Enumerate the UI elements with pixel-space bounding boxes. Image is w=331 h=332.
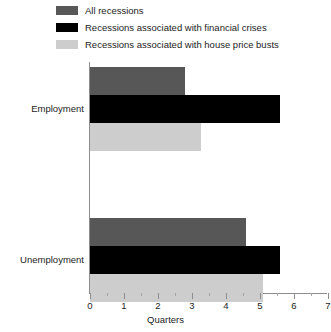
x-tick-label-4: 4 bbox=[223, 300, 228, 311]
x-tick-1 bbox=[124, 293, 125, 299]
category-label-employment: Employment bbox=[31, 103, 84, 114]
x-tick-0 bbox=[90, 293, 91, 299]
x-tick-2 bbox=[158, 293, 159, 299]
x-tick-4 bbox=[226, 293, 227, 299]
x-tick-minor bbox=[175, 293, 176, 296]
x-tick-minor bbox=[311, 293, 312, 296]
x-tick-minor bbox=[107, 293, 108, 296]
x-tick-3 bbox=[192, 293, 193, 299]
bar-unemployment-house-price-busts bbox=[90, 274, 263, 302]
x-tick-label-2: 2 bbox=[155, 300, 160, 311]
x-tick-label-1: 1 bbox=[121, 300, 126, 311]
x-tick-minor bbox=[243, 293, 244, 296]
category-label-unemployment: Unemployment bbox=[20, 254, 84, 265]
x-tick-label-5: 5 bbox=[257, 300, 262, 311]
bar-unemployment-all-recessions bbox=[90, 218, 246, 246]
x-tick-6 bbox=[294, 293, 295, 299]
x-tick-label-7: 7 bbox=[325, 300, 330, 311]
x-tick-5 bbox=[260, 293, 261, 299]
x-tick-7 bbox=[328, 293, 329, 299]
x-tick-label-3: 3 bbox=[189, 300, 194, 311]
x-tick-minor bbox=[277, 293, 278, 296]
bar-employment-house-price-busts bbox=[90, 123, 201, 151]
bar-chart-plot: Employment Unemployment 01234567 Quarter… bbox=[0, 0, 331, 332]
bar-employment-financial-crises bbox=[90, 95, 280, 123]
x-tick-minor bbox=[209, 293, 210, 296]
x-axis-title: Quarters bbox=[0, 314, 331, 325]
bar-employment-all-recessions bbox=[90, 67, 185, 95]
x-tick-label-6: 6 bbox=[291, 300, 296, 311]
x-tick-label-0: 0 bbox=[87, 300, 92, 311]
x-tick-minor bbox=[141, 293, 142, 296]
bar-unemployment-financial-crises bbox=[90, 246, 280, 274]
